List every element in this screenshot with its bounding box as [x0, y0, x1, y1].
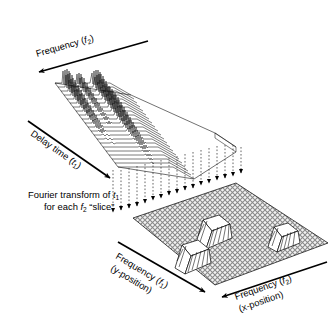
caption-line-1: Fourier transform of t1	[28, 189, 120, 201]
figure-canvas: Frequency (f2) Delay time (t1) Fourier t…	[0, 0, 335, 334]
nmr-2d-figure: Frequency (f2) Delay time (t1) Fourier t…	[0, 0, 335, 334]
caption-line-2: for each f2 “slice”	[44, 201, 114, 213]
